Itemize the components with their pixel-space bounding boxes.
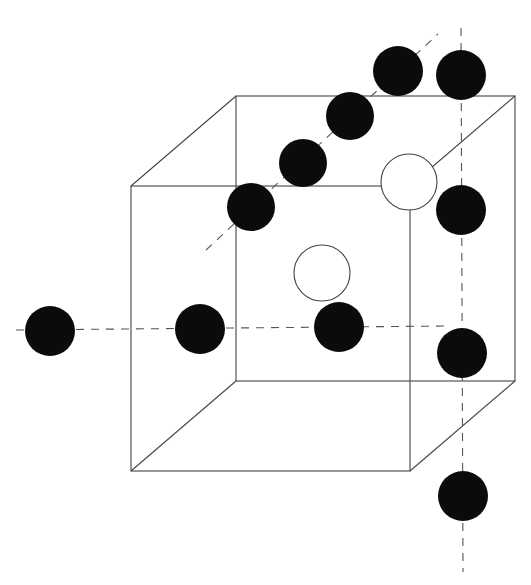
crystal-lattice-diagram <box>0 0 531 585</box>
filled-atom <box>437 328 487 378</box>
filled-atom <box>438 471 488 521</box>
filled-atom <box>227 183 275 231</box>
hollow-atom <box>381 154 437 210</box>
filled-atom <box>25 306 75 356</box>
filled-atom <box>175 304 225 354</box>
filled-atom <box>326 92 374 140</box>
filled-atom <box>436 50 486 100</box>
hollow-atom <box>294 245 350 301</box>
filled-atom <box>436 185 486 235</box>
filled-atom <box>279 139 327 187</box>
cube-depth-edge <box>131 381 236 471</box>
filled-atoms <box>25 46 488 521</box>
filled-atom <box>314 302 364 352</box>
horizontal-axis <box>16 326 448 330</box>
dashed-axes <box>16 28 463 572</box>
filled-atom <box>373 46 423 96</box>
cube-depth-edge <box>131 96 236 186</box>
